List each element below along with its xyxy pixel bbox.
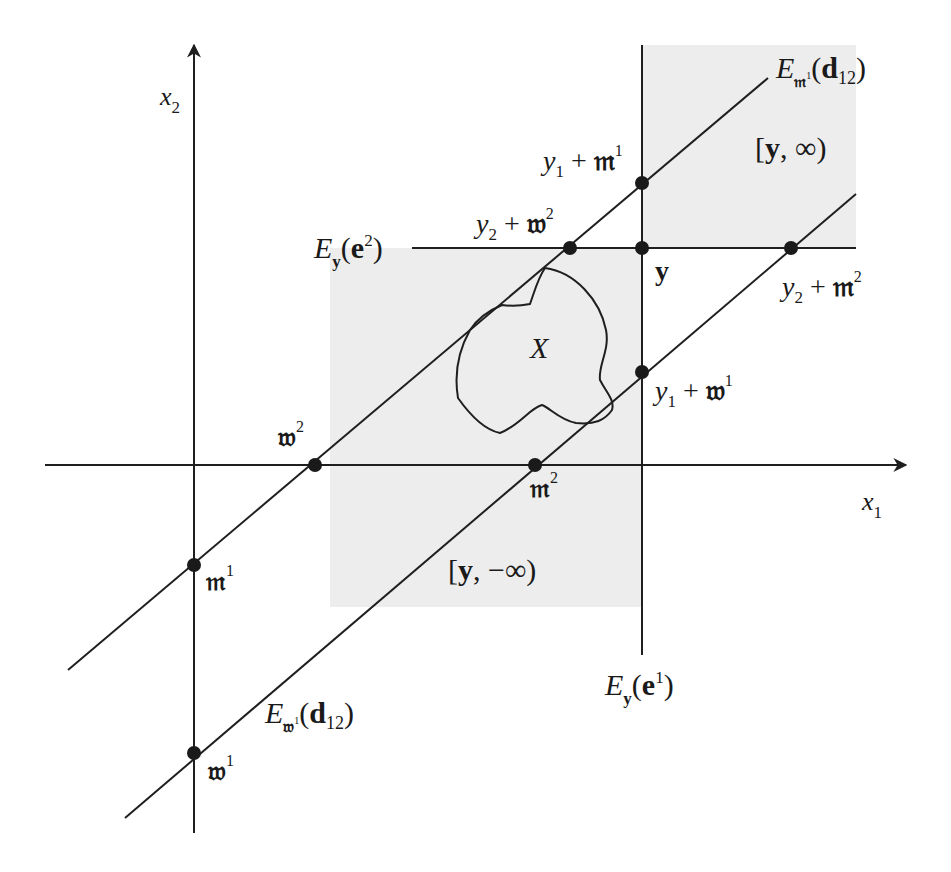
diagram-canvas: x2 x1 E𝔪1(d12) E𝔴1(d12) Ey(e2) Ey(e1) [y… [0, 0, 951, 872]
point-y1-plus-w1 [635, 365, 649, 379]
x1-axis-label: x1 [861, 487, 882, 522]
label-y2-plus-w2: y2 + 𝔴2 [473, 205, 554, 244]
set-x-label: X [529, 331, 550, 364]
label-w1: 𝔴1 [207, 752, 234, 786]
point-y2-plus-w2 [563, 241, 577, 255]
point-m1 [187, 558, 201, 572]
label-w2: 𝔴2 [277, 418, 304, 452]
lower-cone-label: [y, −∞) [448, 553, 536, 587]
label-y: y [655, 255, 669, 286]
point-w2 [308, 458, 322, 472]
point-y [635, 241, 649, 255]
label-y1-plus-m1: y1 + 𝔪1 [540, 142, 623, 181]
vertical-line-label: Ey(e1) [604, 668, 674, 708]
point-m2 [528, 458, 542, 472]
upper-cone-label: [y, ∞) [755, 131, 826, 165]
label-y2-plus-m2: y2 + 𝔪2 [779, 268, 862, 307]
label-y1-plus-w1: y1 + 𝔴1 [652, 372, 733, 411]
x2-axis-label: x2 [159, 82, 180, 117]
point-y1-plus-m1 [635, 176, 649, 190]
lower-diagonal-label: E𝔴1(d12) [264, 696, 354, 735]
point-w1 [187, 746, 201, 760]
label-m1: 𝔪1 [205, 562, 234, 596]
point-y2-plus-m2 [784, 241, 798, 255]
